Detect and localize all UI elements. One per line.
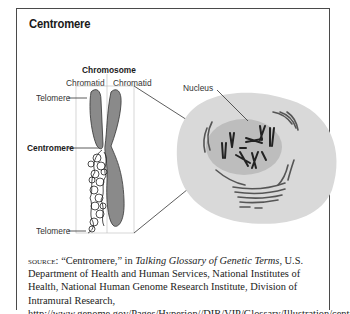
chromatid-left-icon <box>90 90 103 149</box>
source-citation: SOURCE: “Centromere,” in Talking Glossar… <box>28 254 328 314</box>
source-prefix: SOURCE: <box>28 255 59 266</box>
cell-icon <box>177 93 337 224</box>
dna-coil-icon <box>88 150 107 233</box>
chromatid-right-icon <box>105 90 124 227</box>
source-quoted-title: “Centromere,” in <box>61 255 135 266</box>
source-book-title: Talking Glossary of Genetic Terms <box>135 255 279 266</box>
